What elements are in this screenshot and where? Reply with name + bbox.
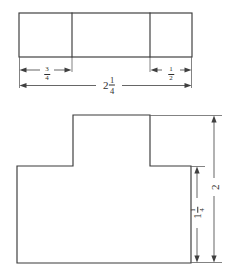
- label-fraction: 1 4: [109, 76, 115, 95]
- label-whole-part: 2: [210, 184, 221, 190]
- bottom-figure-t-shape: [17, 115, 191, 263]
- label-whole-part: 1: [192, 213, 203, 219]
- dimension-label-left-segment-width: 3 4: [44, 58, 50, 82]
- drawing-sheet: 3 4 1 2 2 1 4 2: [0, 0, 240, 278]
- technical-drawing-canvas: [0, 0, 240, 278]
- top-figure-segmented-rectangle: [19, 13, 192, 57]
- label-fraction: 1 2: [168, 66, 174, 82]
- label-fraction: 1 4: [190, 207, 206, 213]
- label-fraction: 3 4: [44, 66, 50, 82]
- dimension-label-base-height: 1 1 4: [188, 207, 206, 219]
- dimension-label-overall-width: 2 1 4: [103, 76, 115, 95]
- dimension-label-overall-height: 2: [206, 184, 222, 190]
- dimension-label-right-segment-width: 1 2: [168, 58, 174, 82]
